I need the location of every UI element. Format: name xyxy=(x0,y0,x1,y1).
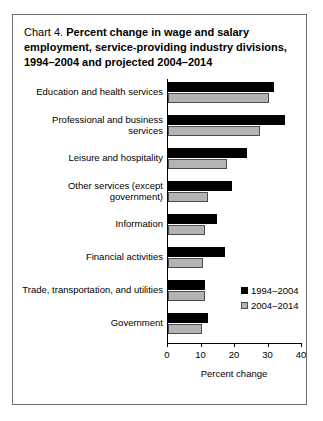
chart-title-line-1: Chart 4. Percent change in wage and sala… xyxy=(24,25,296,40)
legend-label: 2004–2014 xyxy=(251,300,299,311)
legend-swatch-icon xyxy=(241,287,248,294)
category-label-line: Education and health services xyxy=(17,86,163,98)
chart-number-label: Chart 4. xyxy=(24,26,63,38)
category-label-line: government) xyxy=(17,191,163,203)
category-label-line: Trade, transportation, and utilities xyxy=(17,284,163,296)
legend-swatch-icon xyxy=(241,302,248,309)
x-axis-tick-label: 40 xyxy=(288,349,314,360)
category-label-line: Information xyxy=(17,218,163,230)
x-axis-tick-label: 30 xyxy=(255,349,281,360)
bar-0 xyxy=(168,280,205,290)
bar-1 xyxy=(168,291,205,301)
category-axis-labels: Education and health servicesProfessiona… xyxy=(17,79,163,343)
chart-title-line-3: 1994–2004 and projected 2004–2014 xyxy=(24,55,296,70)
chart-title-part-1: Percent change in wage and salary xyxy=(66,26,249,38)
plot-area: Education and health servicesProfessiona… xyxy=(13,79,308,405)
category-label: Financial activities xyxy=(17,251,163,263)
category-label: Leisure and hospitality xyxy=(17,152,163,164)
bar-1 xyxy=(168,225,205,235)
chart-title-line-2: employment, service-providing industry d… xyxy=(24,40,296,55)
bar-1 xyxy=(168,192,208,202)
bar-0 xyxy=(168,247,225,257)
x-axis-tick xyxy=(201,343,202,347)
x-axis-tick xyxy=(234,343,235,347)
category-label-line: services xyxy=(17,125,163,137)
x-axis-tick xyxy=(301,343,302,347)
bar-1 xyxy=(168,93,269,103)
x-axis-tick xyxy=(167,343,168,347)
legend-item: 1994–2004 xyxy=(241,284,303,297)
chart-card: Chart 4. Percent change in wage and sala… xyxy=(12,14,307,405)
category-label-line: Other services (except xyxy=(17,180,163,192)
bar-0 xyxy=(168,313,208,323)
bar-0 xyxy=(168,214,217,224)
category-label: Professional and businessservices xyxy=(17,114,163,137)
bar-1 xyxy=(168,126,260,136)
bar-0 xyxy=(168,82,274,92)
bar-0 xyxy=(168,181,232,191)
bar-0 xyxy=(168,148,247,158)
category-label: Other services (exceptgovernment) xyxy=(17,180,163,203)
category-label-line: Professional and business xyxy=(17,114,163,126)
category-label: Government xyxy=(17,317,163,329)
category-label: Education and health services xyxy=(17,86,163,98)
category-label: Information xyxy=(17,218,163,230)
chart-title-block: Chart 4. Percent change in wage and sala… xyxy=(24,25,296,70)
bar-1 xyxy=(168,258,203,268)
x-axis-tick-label: 20 xyxy=(221,349,247,360)
bar-1 xyxy=(168,324,202,334)
legend-item: 2004–2014 xyxy=(241,299,303,312)
legend-label: 1994–2004 xyxy=(251,285,299,296)
x-axis-tick xyxy=(268,343,269,347)
x-axis-tick-label: 10 xyxy=(188,349,214,360)
x-axis-tick-label: 0 xyxy=(154,349,180,360)
x-axis-title: Percent change xyxy=(167,368,301,379)
chart-legend: 1994–20042004–2014 xyxy=(241,284,303,314)
bar-1 xyxy=(168,159,227,169)
bar-0 xyxy=(168,115,285,125)
category-label-line: Financial activities xyxy=(17,251,163,263)
category-label: Trade, transportation, and utilities xyxy=(17,284,163,296)
category-label-line: Government xyxy=(17,317,163,329)
category-label-line: Leisure and hospitality xyxy=(17,152,163,164)
